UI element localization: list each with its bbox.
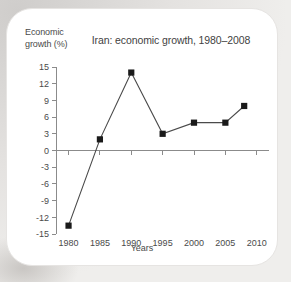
data-point-marker (191, 120, 197, 126)
data-point-marker (97, 136, 103, 142)
data-point-marker (160, 131, 166, 137)
y-tick-label: 6 (44, 112, 49, 122)
chart-card: Economic growth (%) Iran: economic growt… (6, 8, 278, 266)
y-tick-label: -6 (41, 179, 49, 189)
data-point-marker (222, 120, 228, 126)
data-point-marker (241, 103, 247, 109)
y-tick-label: -3 (41, 162, 49, 172)
chart-figure: Economic growth (%) Iran: economic growt… (7, 9, 277, 265)
y-tick-label: -9 (41, 196, 49, 206)
data-point-marker (128, 69, 134, 75)
x-axis-title: Years (7, 243, 277, 253)
y-tick-label: 15 (39, 62, 49, 72)
data-point-marker (65, 223, 71, 229)
y-tick-label: 12 (39, 79, 49, 89)
y-tick-label: -12 (36, 213, 49, 223)
series-line (69, 73, 245, 226)
line-chart-plot: 15129630-3-6-9-12-1519801985199019952000… (7, 9, 279, 267)
y-tick-label: 3 (44, 129, 49, 139)
y-tick-label: 0 (44, 146, 49, 156)
y-tick-label: -15 (36, 229, 49, 239)
y-tick-label: 9 (44, 96, 49, 106)
